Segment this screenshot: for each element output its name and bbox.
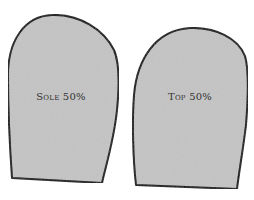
sole-pattern-piece: Sole 50% xyxy=(8,15,119,183)
top-label: Top 50% xyxy=(168,91,212,102)
top-pattern-piece: Top 50% xyxy=(133,28,248,189)
pattern-diagram: Sole 50% Top 50% xyxy=(0,0,254,200)
sole-label: Sole 50% xyxy=(36,91,85,102)
